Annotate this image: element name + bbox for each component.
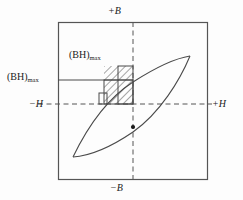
bh-hysteresis-figure: +B −B −H +H (BH)max (BH)max bbox=[0, 0, 243, 200]
bh-max-label-outer: (BH)max bbox=[7, 72, 39, 82]
bh-max-outer-subscript: max bbox=[28, 76, 39, 83]
bh-max-outer-base: (BH) bbox=[7, 71, 28, 82]
bh-max-inner-subscript: max bbox=[90, 54, 101, 61]
axis-label-positive-h: +H bbox=[212, 99, 226, 109]
axis-label-negative-h: −H bbox=[29, 99, 43, 109]
bh-max-label-inner: (BH)max bbox=[69, 50, 101, 60]
bh-max-inner-base: (BH) bbox=[69, 49, 90, 60]
axis-label-negative-b: −B bbox=[110, 183, 123, 193]
axis-label-positive-b: +B bbox=[108, 6, 121, 16]
operating-point-dot bbox=[131, 125, 135, 129]
